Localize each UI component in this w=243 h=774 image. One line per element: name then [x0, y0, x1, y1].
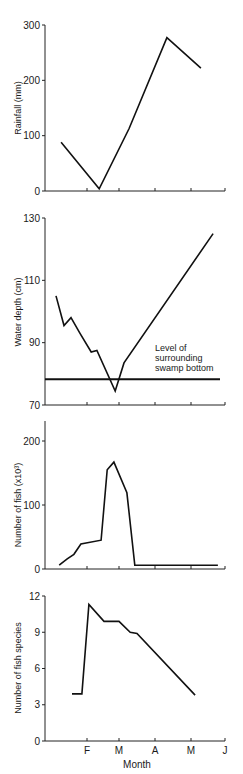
- depth-y-axis: 7090110130: [23, 213, 45, 411]
- panel-fish-species: 036912 FMAMJ Number of fish species Mont…: [13, 591, 228, 771]
- rainfall-y-axis: 0100200300: [23, 20, 45, 197]
- species-y-axis: 036912: [29, 591, 45, 747]
- fish-x-axis: [45, 566, 225, 569]
- x-tick-label: F: [84, 745, 90, 756]
- species-y-label: Number of fish species: [13, 622, 23, 714]
- y-tick-label: 100: [23, 500, 40, 511]
- y-tick-label: 9: [34, 627, 40, 638]
- x-tick-label: M: [115, 745, 123, 756]
- swamp-annotation-line-2: surrounding: [155, 353, 203, 363]
- fish-y-label: Number of fish (x10³): [13, 463, 23, 548]
- y-tick-label: 200: [23, 75, 40, 86]
- y-tick-label: 0: [34, 736, 40, 747]
- species-line: [72, 605, 195, 696]
- y-tick-label: 200: [23, 436, 40, 447]
- panel-water-depth: 7090110130 Water depth (cm) Level of sur…: [13, 213, 225, 411]
- depth-y-label: Water depth (cm): [13, 277, 23, 346]
- y-tick-label: 130: [23, 213, 40, 224]
- swamp-annotation-line-3: swamp bottom: [155, 363, 214, 373]
- panel-rainfall: 0100200300 Rainfall (mm): [13, 20, 225, 197]
- y-tick-label: 300: [23, 20, 40, 31]
- rainfall-y-label: Rainfall (mm): [13, 81, 23, 135]
- figure: 0100200300 Rainfall (mm) 7090110130 Wate…: [0, 0, 243, 774]
- fish-line: [59, 462, 218, 565]
- depth-x-axis: [45, 402, 225, 405]
- rainfall-line: [61, 38, 201, 189]
- y-tick-label: 100: [23, 130, 40, 141]
- species-x-axis: FMAMJ: [45, 738, 228, 756]
- x-tick-label: A: [152, 745, 159, 756]
- fish-y-axis: 0100200: [23, 421, 45, 575]
- x-tick-label: M: [187, 745, 195, 756]
- y-tick-label: 6: [34, 663, 40, 674]
- y-tick-label: 70: [29, 400, 41, 411]
- y-tick-label: 90: [29, 337, 41, 348]
- y-tick-label: 3: [34, 699, 40, 710]
- panel-fish-count: 0100200 Number of fish (x10³): [13, 421, 225, 575]
- y-tick-label: 110: [24, 275, 40, 286]
- x-axis-title: Month: [123, 759, 151, 770]
- y-tick-label: 0: [34, 186, 40, 197]
- y-tick-label: 0: [34, 564, 40, 575]
- x-tick-label: J: [223, 745, 228, 756]
- y-tick-label: 12: [29, 591, 41, 602]
- swamp-annotation-line-1: Level of: [155, 343, 187, 353]
- rainfall-x-axis: [45, 188, 225, 191]
